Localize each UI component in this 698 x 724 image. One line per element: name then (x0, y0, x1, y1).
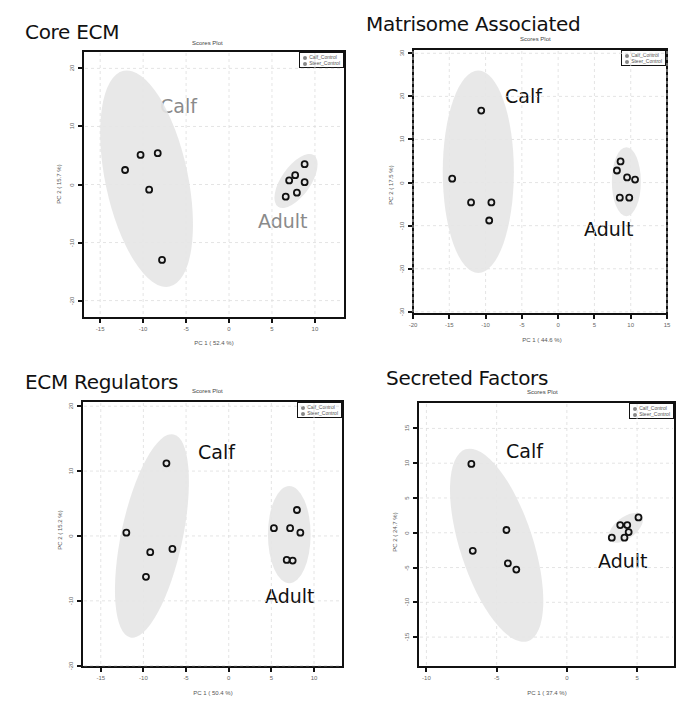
confidence-ellipse (443, 71, 514, 274)
plot-layer (420, 404, 673, 665)
confidence-ellipse (431, 438, 563, 652)
confidence-ellipse (266, 147, 326, 215)
plot-layer (83, 53, 343, 316)
plot-layer (413, 51, 667, 312)
confidence-ellipse (83, 62, 210, 295)
confidence-ellipse (268, 486, 311, 583)
plot-overlay (0, 0, 698, 724)
plot-layer (84, 403, 341, 666)
